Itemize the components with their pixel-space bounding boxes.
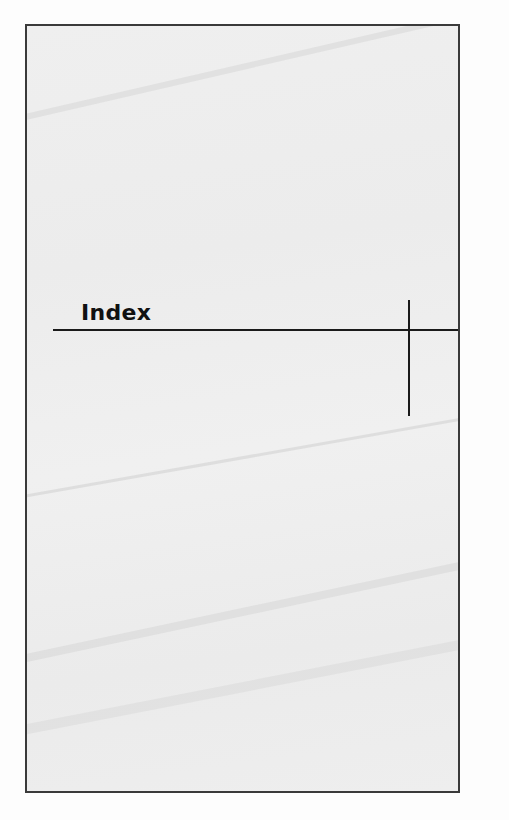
paper-streak bbox=[25, 548, 460, 664]
document-page: Index bbox=[0, 0, 509, 820]
vertical-rule bbox=[408, 300, 410, 416]
index-panel: Index bbox=[25, 24, 460, 793]
index-heading: Index bbox=[81, 300, 151, 325]
paper-streak bbox=[25, 24, 460, 122]
horizontal-rule bbox=[53, 329, 458, 331]
paper-streak bbox=[25, 406, 460, 499]
